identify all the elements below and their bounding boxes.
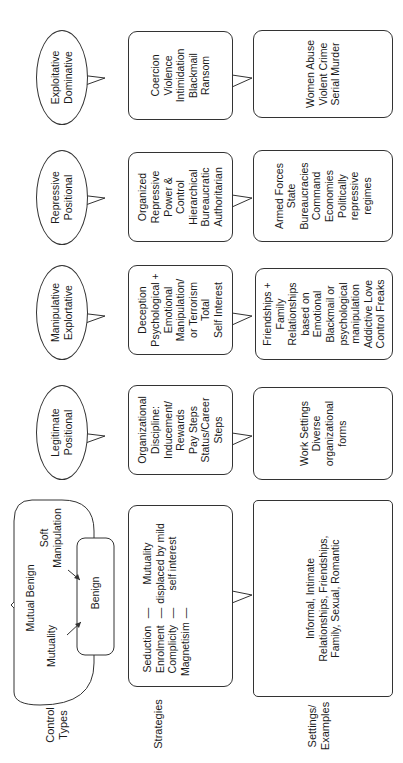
row-label-control-types: Control Types bbox=[44, 695, 70, 755]
label-line: Soft bbox=[38, 498, 51, 578]
label-line: Intimidation bbox=[174, 49, 187, 103]
control-types-diagram: Control Types Strategies Settings/ Examp… bbox=[0, 0, 403, 763]
strategy-row: Enrolment — displaced by mild bbox=[154, 521, 167, 678]
strategy-term: Complicity bbox=[166, 620, 179, 678]
label-line: forms bbox=[336, 420, 349, 446]
row-label-strategies: Strategies bbox=[152, 689, 165, 759]
label-line: State bbox=[285, 184, 298, 209]
label-line: Discipline: bbox=[149, 406, 162, 454]
strategy-note bbox=[179, 521, 192, 606]
label-line: Ransom bbox=[199, 56, 212, 95]
strategy-repressive: Organized Repressive Power & Control Hie… bbox=[128, 152, 233, 242]
label-line: Steps bbox=[212, 417, 225, 444]
strategy-term: Enrolment bbox=[154, 620, 167, 678]
label-line: Addictive Love bbox=[362, 280, 375, 348]
label-line: Work Settings bbox=[298, 401, 311, 466]
label-line: Relationships bbox=[286, 282, 299, 345]
label-line: Explortative bbox=[62, 283, 75, 342]
strategy-dash: — bbox=[166, 606, 179, 621]
strategy-note: displaced by mild bbox=[154, 521, 167, 606]
row-label-line: Examples bbox=[319, 693, 332, 759]
strategy-term: Seduction bbox=[141, 620, 154, 678]
label-line: Psychological + bbox=[149, 273, 162, 346]
mutuality-label: Mutuality bbox=[45, 611, 58, 681]
strategy-row: Complicity — self interest bbox=[166, 521, 179, 678]
label-line: Inducement/ bbox=[162, 401, 175, 459]
label-line: Organizational bbox=[136, 396, 149, 464]
mutual-benign-title: Mutual Benign bbox=[24, 543, 37, 653]
setting-exploitative: Women Abuse Violent Crime Serial Murder bbox=[253, 30, 393, 118]
strategy-dash: — bbox=[141, 606, 154, 621]
label-line: Manipulation/ bbox=[174, 279, 187, 341]
label-line: Manipulation bbox=[51, 498, 64, 578]
label-line: regimes bbox=[361, 177, 374, 214]
setting-repressive: Armed Forces State Bureaucracies Command… bbox=[253, 150, 393, 242]
row-label-line: Settings/ bbox=[306, 693, 319, 759]
row-label-line: Control bbox=[44, 695, 57, 755]
label-line: or Terrorism bbox=[187, 282, 200, 338]
strategy-manipulative: Deception Psychological + Emotional Mani… bbox=[128, 265, 233, 355]
label-line: Serial Murder bbox=[329, 43, 342, 106]
label-line: Blackmail bbox=[187, 53, 200, 98]
strategy-row: Seduction — Mutuality bbox=[141, 521, 154, 678]
strategy-row: Magnetisim — bbox=[179, 521, 192, 678]
label-line: Exploitative bbox=[49, 51, 62, 105]
benign-label: Benign bbox=[89, 563, 102, 623]
label-line: Blackmail or bbox=[324, 285, 337, 342]
label-line: Economies bbox=[323, 170, 336, 222]
label-line: Legitimate bbox=[49, 408, 62, 456]
label-line: Rewards bbox=[174, 409, 187, 450]
label-line: Emotional bbox=[162, 287, 175, 334]
label-line: Dominative bbox=[62, 51, 75, 105]
label-line: Politically bbox=[336, 174, 349, 218]
label-line: Bureaucracies bbox=[298, 162, 311, 229]
label-line: Violent Crime bbox=[317, 43, 330, 106]
label-line: Organized bbox=[136, 173, 149, 221]
control-type-legitimate-positional: Legitimate Positional bbox=[36, 385, 88, 480]
strategy-dash: — bbox=[154, 606, 167, 621]
control-type-exploitative-dominative: Exploitative Dominative bbox=[36, 30, 88, 125]
setting-mutual-benign: Informal, Intimate Relationships, Friend… bbox=[253, 500, 393, 697]
label-line: Family bbox=[274, 299, 287, 330]
label-line: Coercion bbox=[149, 55, 162, 97]
label-line: repressive bbox=[348, 172, 361, 220]
label-line: Control Freaks bbox=[374, 280, 387, 349]
label-line: Violence bbox=[162, 55, 175, 95]
label-line: Informal, Intimate bbox=[304, 558, 317, 639]
row-label-line: Types bbox=[57, 695, 70, 755]
label-line: Diverse bbox=[310, 416, 323, 452]
soft-manipulation-label: Soft Manipulation bbox=[38, 498, 63, 578]
strategy-mutual-benign: Seduction — Mutuality Enrolment — displa… bbox=[128, 505, 233, 687]
label-line: Emotional bbox=[311, 291, 324, 338]
row-label-settings: Settings/ Examples bbox=[306, 693, 332, 759]
label-line: Armed Forces bbox=[273, 163, 286, 229]
label-line: based on bbox=[299, 292, 312, 335]
setting-legitimate: Work Settings Diverse organizational for… bbox=[253, 387, 393, 480]
label-line: Total bbox=[199, 299, 212, 321]
strategy-note: Mutuality bbox=[141, 521, 154, 606]
label-line: Family, Sexual, Romantic bbox=[329, 539, 342, 657]
strategy-mutual-benign-table: Seduction — Mutuality Enrolment — displa… bbox=[141, 521, 191, 678]
label-line: Command bbox=[310, 172, 323, 220]
label-line: psychological bbox=[337, 282, 350, 345]
strategy-dash: — bbox=[179, 606, 192, 621]
label-line: Pay Steps bbox=[187, 406, 200, 454]
label-line: Women Abuse bbox=[304, 40, 317, 108]
label-line: Control bbox=[174, 180, 187, 214]
label-line: Positional bbox=[62, 408, 75, 456]
control-type-repressive-positional: Repressive Positional bbox=[36, 150, 88, 245]
label-line: Relationships, Friendships, bbox=[317, 535, 330, 661]
label-line: Self Interest bbox=[212, 282, 225, 338]
label-line: Manipulative bbox=[49, 283, 62, 342]
label-line: Power & bbox=[162, 177, 175, 217]
strategy-term: Magnetisim bbox=[179, 620, 192, 678]
setting-manipulative: Friendships + Family Relationships based… bbox=[255, 268, 393, 360]
label-line: Repressive bbox=[49, 171, 62, 224]
label-line: Positional bbox=[62, 171, 75, 224]
label-line: Repressive bbox=[149, 171, 162, 224]
strategy-exploitative: Coercion Violence Intimidation Blackmail… bbox=[128, 31, 233, 120]
strategy-note: self interest bbox=[166, 521, 179, 606]
control-type-manipulative-explortative: Manipulative Explortative bbox=[36, 265, 88, 360]
strategy-legitimate: Organizational Discipline: Inducement/ R… bbox=[128, 385, 233, 475]
label-line: organizational bbox=[323, 401, 336, 466]
